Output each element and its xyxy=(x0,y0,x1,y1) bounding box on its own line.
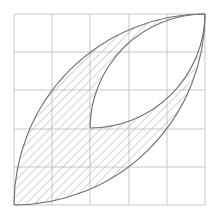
inner-lower-arc xyxy=(90,14,205,128)
inner-upper-arc xyxy=(90,14,205,128)
hatched-region xyxy=(14,14,205,205)
shaded-region-diagram xyxy=(0,0,214,219)
